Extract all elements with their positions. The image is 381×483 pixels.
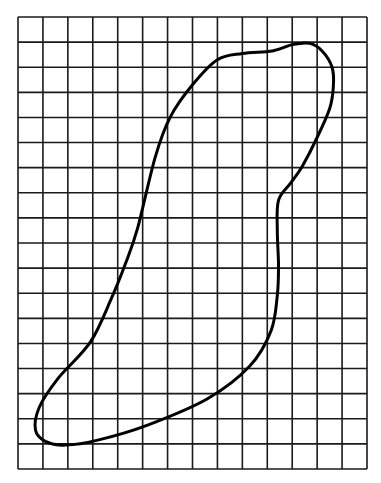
closed-curve-outline <box>35 43 334 445</box>
grid-figure <box>0 0 381 483</box>
